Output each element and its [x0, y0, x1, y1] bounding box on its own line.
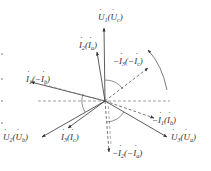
label-u3-main: U [171, 132, 178, 142]
label-i2-paren-sub: a [91, 45, 94, 51]
label-neg-i1-sub: 1 [161, 120, 164, 126]
label-neg-i3-paren-main: I [134, 56, 137, 66]
label-neg-i2-sub: 2 [121, 153, 124, 159]
margin-mark [1, 122, 3, 124]
label-neg-i2-paren-sub: a [136, 153, 139, 159]
label-u1-main: U [98, 12, 105, 22]
phasor-u1 [104, 28, 105, 101]
label-i3-sub: 3 [64, 137, 67, 143]
label-neg-i3-sub: 3 [122, 61, 125, 67]
label-u1-paren-sub: c [117, 17, 120, 23]
angle-arc-left [82, 94, 85, 112]
label-i1-paren-main: I [41, 74, 44, 84]
phasor-neg-i3 [105, 68, 148, 101]
label-i2-sub: 2 [82, 45, 85, 51]
rotation-direction-arc [148, 50, 167, 90]
label-u3-paren-main: U [184, 132, 191, 142]
label-i2: I2(Ia) [79, 40, 97, 53]
label-u3-paren-sub: a [190, 137, 193, 143]
label-u1: U1(Uc) [98, 12, 123, 25]
label-neg-i3-main: I [119, 56, 122, 66]
label-neg-i3: −I3(−Ic) [113, 56, 143, 69]
label-i2-main: I [79, 40, 82, 50]
label-neg-i3-paren-sub: c [137, 61, 140, 67]
margin-mark [1, 100, 3, 102]
margin-mark [1, 53, 3, 55]
label-i1-main: I [26, 74, 29, 84]
phasor-neg-i2-double [108, 101, 111, 146]
label-neg-i1-paren-main: I [167, 115, 170, 125]
label-neg-i1-paren-sub: b [170, 120, 173, 126]
label-u1-paren-main: U [111, 12, 118, 22]
label-u2-paren-sub: b [22, 137, 25, 143]
phasor-i2 [97, 52, 105, 101]
angle-arc-top [105, 80, 123, 89]
label-i1-sub: 1 [29, 79, 32, 85]
margin-mark [1, 78, 3, 80]
label-neg-i2: −I2(−Ia) [112, 148, 142, 161]
label-u2-main: U [3, 132, 10, 142]
label-neg-i2-main: I [118, 148, 121, 158]
label-u2-paren-main: U [16, 132, 23, 142]
label-i1: I1(−Ib) [26, 74, 50, 87]
label-i3-main: I [61, 132, 64, 142]
label-u2: U2(Ub) [3, 132, 28, 145]
phasor-i3 [68, 101, 105, 128]
label-u3: U3(Ua) [171, 132, 196, 145]
label-neg-i2-paren-main: I [133, 148, 136, 158]
angle-arc-bottom [107, 112, 124, 122]
label-i3: I3(Ic) [61, 132, 79, 145]
label-neg-i1-main: I [158, 115, 161, 125]
label-i1-paren-sub: b [44, 79, 47, 85]
label-i3-paren-sub: c [73, 137, 76, 143]
label-i3-paren-main: I [70, 132, 73, 142]
label-i2-paren-main: I [88, 40, 91, 50]
